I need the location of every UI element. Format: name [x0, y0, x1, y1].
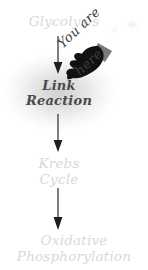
stage-label-krebs-cycle: Krebs Cycle: [4, 156, 114, 188]
flow-arrow-krebs-to-oxidative-phosphorylation: [50, 188, 66, 230]
cellular-respiration-diagram: Glycolysis Link Reaction You are here Kr…: [0, 0, 148, 270]
flow-arrow-link-to-krebs: [50, 114, 66, 152]
stage-label-oxidative-phosphorylation: Oxidative Phosphorylation: [0, 233, 148, 265]
